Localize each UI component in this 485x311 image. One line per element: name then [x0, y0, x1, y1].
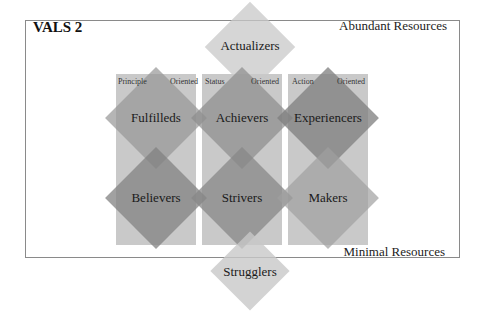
column-2-left-label: Status: [205, 77, 225, 86]
believers-label: Believers: [106, 190, 206, 206]
column-1-left-label: Principle: [118, 77, 147, 86]
column-3-left-label: Action: [292, 77, 314, 86]
column-3-right-label: Oriented: [337, 77, 365, 86]
abundant-resources-label: Abundant Resources: [339, 18, 447, 34]
strivers-label: Strivers: [192, 190, 292, 206]
strugglers-label: Strugglers: [200, 264, 300, 280]
diagram-title: VALS 2: [33, 19, 82, 36]
column-1-right-label: Oriented: [170, 77, 198, 86]
minimal-resources-label: Minimal Resources: [344, 244, 445, 260]
column-2-right-label: Oriented: [251, 77, 279, 86]
achievers-label: Achievers: [192, 110, 292, 126]
fulfilleds-label: Fulfilleds: [106, 110, 206, 126]
makers-label: Makers: [278, 190, 378, 206]
actualizers-label: Actualizers: [200, 38, 300, 54]
experiencers-label: Experiencers: [278, 110, 378, 126]
